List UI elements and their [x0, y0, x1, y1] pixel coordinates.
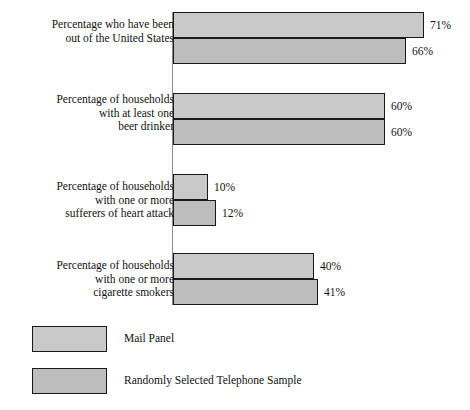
bar-telephone-sample[interactable]	[173, 38, 406, 64]
bar-group: Percentage of households with at least o…	[0, 93, 470, 145]
bar-value-label: 41%	[324, 286, 345, 299]
category-label: Percentage of households with one or mor…	[14, 259, 174, 300]
category-label: Percentage who have been out of the Unit…	[14, 18, 174, 45]
legend-swatch-icon	[32, 326, 107, 352]
bar-group: Percentage of households with one or mor…	[0, 174, 470, 226]
bar-value-label: 60%	[391, 126, 412, 139]
bar-telephone-sample[interactable]	[173, 200, 216, 226]
bar-mail-panel[interactable]	[173, 174, 208, 200]
bar-group: Percentage of households with one or mor…	[0, 253, 470, 305]
bar-value-label: 60%	[391, 100, 412, 113]
bar-mail-panel[interactable]	[173, 12, 424, 38]
bar-mail-panel[interactable]	[173, 253, 314, 279]
legend-label: Randomly Selected Telephone Sample	[124, 374, 302, 386]
bar-value-label: 40%	[320, 260, 341, 273]
bar-telephone-sample[interactable]	[173, 279, 318, 305]
category-label: Percentage of households with one or mor…	[14, 180, 174, 221]
bar-value-label: 71%	[430, 19, 451, 32]
bar-value-label: 10%	[214, 181, 235, 194]
legend-swatch-icon	[32, 368, 107, 394]
bar-value-label: 66%	[412, 45, 433, 58]
bar-mail-panel[interactable]	[173, 93, 385, 119]
plot-area: Percentage who have been out of the Unit…	[0, 0, 470, 320]
bar-group: Percentage who have been out of the Unit…	[0, 12, 470, 64]
bar-value-label: 12%	[222, 207, 243, 220]
legend-label: Mail Panel	[124, 332, 174, 344]
bar-chart: Percentage who have been out of the Unit…	[0, 0, 470, 410]
category-label: Percentage of households with at least o…	[14, 93, 174, 134]
bar-telephone-sample[interactable]	[173, 119, 385, 145]
